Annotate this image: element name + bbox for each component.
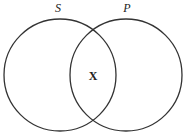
set-p-label: P xyxy=(122,1,131,15)
intersection-mark: X xyxy=(89,69,98,83)
venn-diagram: S P X xyxy=(0,0,187,136)
set-s-label: S xyxy=(55,1,61,15)
set-p-circle xyxy=(70,19,182,131)
set-s-circle xyxy=(4,19,116,131)
